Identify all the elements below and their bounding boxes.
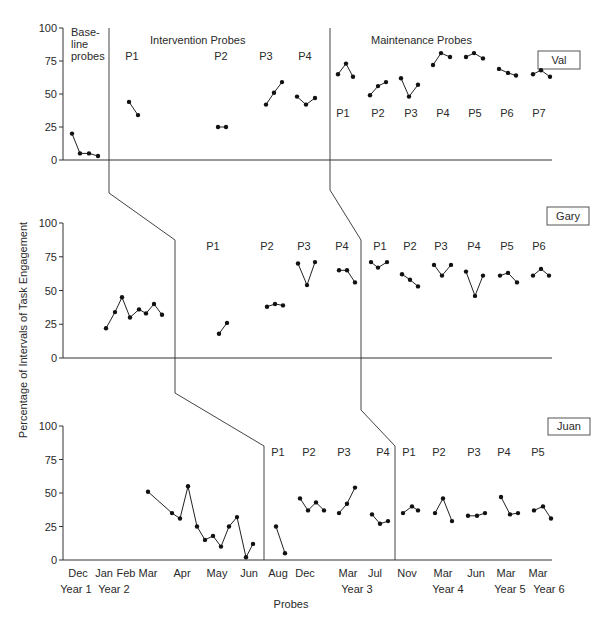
y-tick-label: 100 [39, 22, 57, 34]
data-point [203, 538, 207, 542]
panel-gary: 0255075100GaryP1P2P3P4P1P2P3P4P5P6 [39, 207, 589, 364]
x-year-label: Year 4 [432, 583, 463, 595]
data-point [195, 524, 199, 528]
data-point [251, 542, 255, 546]
probe-label: P7 [532, 107, 545, 119]
data-point [219, 544, 223, 548]
probe-label: P3 [259, 50, 272, 62]
data-point [539, 68, 543, 72]
data-point [353, 485, 357, 489]
baseline-phase-label-3: probes [71, 50, 105, 62]
series-line [148, 486, 253, 557]
probe-label: P3 [404, 107, 417, 119]
x-month-label: Mar [139, 567, 158, 579]
data-point [113, 310, 117, 314]
data-point [401, 511, 405, 515]
data-point [416, 284, 420, 288]
x-month-label: Mar [497, 567, 516, 579]
data-point [216, 125, 220, 129]
y-axis-label: Percentage of Intervals of Task Engageme… [17, 222, 29, 438]
panel-val: 0255075100ValP1P2P3P4P1P2P3P4P5P6P7 [39, 22, 580, 166]
y-tick-label: 75 [45, 55, 57, 67]
y-tick-label: 0 [51, 352, 57, 364]
probe-label: P2 [214, 50, 227, 62]
data-point [296, 261, 300, 265]
x-month-label: Apr [173, 567, 190, 579]
data-point [170, 511, 174, 515]
series-line [276, 527, 285, 554]
y-tick-label: 50 [45, 487, 57, 499]
y-tick-label: 50 [45, 88, 57, 100]
x-year-label: Year 3 [341, 583, 372, 595]
series-line [501, 497, 518, 514]
data-point [384, 80, 388, 84]
participant-name: Val [551, 54, 566, 66]
data-series [531, 267, 551, 278]
data-series [295, 94, 317, 106]
data-point [376, 265, 380, 269]
x-year-label: Year 1 [60, 583, 91, 595]
series-line [298, 262, 315, 285]
data-series [464, 269, 485, 298]
data-point [305, 283, 309, 287]
series-line [339, 488, 355, 513]
y-tick-label: 50 [45, 285, 57, 297]
x-month-label: Aug [268, 567, 288, 579]
data-point [144, 311, 148, 315]
x-month-label: Dec [295, 567, 315, 579]
data-point [96, 154, 100, 158]
data-point [473, 294, 477, 298]
data-point [306, 508, 310, 512]
x-year-label: Year 6 [533, 583, 564, 595]
data-point [370, 512, 374, 516]
probe-label: P3 [434, 240, 447, 252]
x-year-label: Year 5 [494, 583, 525, 595]
x-month-label: Jun [467, 567, 485, 579]
probe-label: P4 [335, 240, 348, 252]
series-line [466, 272, 483, 296]
intervention-phase-label: Intervention Probes [150, 34, 246, 46]
data-point [548, 75, 552, 79]
data-point [314, 500, 318, 504]
probe-label: P5 [468, 107, 481, 119]
data-point [506, 71, 510, 75]
data-point [227, 524, 231, 528]
data-point [416, 83, 420, 87]
probe-label: P4 [497, 446, 510, 458]
series-line [72, 134, 98, 156]
data-point [376, 84, 380, 88]
data-point [549, 516, 553, 520]
data-point [78, 151, 82, 155]
data-series [337, 485, 357, 515]
data-point [178, 516, 182, 520]
data-point [274, 524, 278, 528]
y-tick-label: 25 [45, 121, 57, 133]
data-point [337, 511, 341, 515]
data-point [160, 313, 164, 317]
x-axis-label: Probes [274, 598, 309, 610]
data-point [128, 315, 132, 319]
y-tick-label: 100 [39, 420, 57, 432]
data-point [508, 512, 512, 516]
data-point [433, 511, 437, 515]
data-series [432, 263, 453, 278]
data-point [498, 273, 502, 277]
data-point [70, 131, 74, 135]
series-line [401, 78, 418, 96]
x-axis-tick-labels: DecJanFebMarAprMayJunAugDecMarJulNovMarJ… [60, 567, 564, 595]
series-line [300, 498, 324, 510]
probe-label: P2 [371, 107, 384, 119]
data-point [298, 496, 302, 500]
baseline-phase-label: Base- [71, 26, 100, 38]
data-point [211, 534, 215, 538]
y-tick-label: 0 [51, 554, 57, 566]
probe-label: P4 [298, 50, 311, 62]
x-month-label: Nov [397, 567, 417, 579]
y-tick-label: 0 [51, 154, 57, 166]
series-line [435, 498, 452, 521]
data-point [441, 496, 445, 500]
data-point [472, 51, 476, 55]
probe-label: P1 [402, 446, 415, 458]
participant-name: Juan [557, 420, 581, 432]
data-point [531, 72, 535, 76]
